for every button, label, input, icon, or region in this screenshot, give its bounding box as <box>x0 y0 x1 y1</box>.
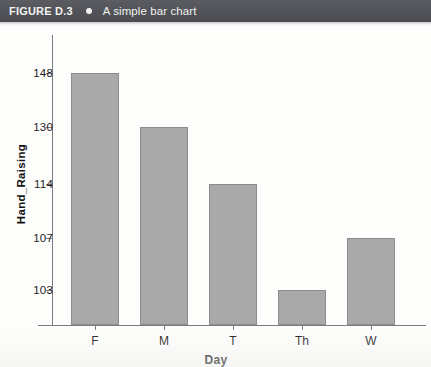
figure-page: FIGURE D.3 A simple bar chart 148 130 11… <box>0 0 431 367</box>
bar-w[interactable] <box>347 238 395 325</box>
bullet-dot-icon <box>86 8 92 14</box>
x-tick-mark <box>95 325 96 330</box>
bar-th[interactable] <box>278 290 326 325</box>
figure-caption: A simple bar chart <box>103 5 197 17</box>
y-axis-title: Hand_Raising <box>15 124 27 244</box>
figure-number-label: FIGURE D.3 <box>9 5 73 17</box>
bar-m[interactable] <box>140 127 188 325</box>
x-tick-label-th: Th <box>272 334 332 348</box>
bar-f[interactable] <box>71 73 119 325</box>
x-axis-title: Day <box>186 353 246 367</box>
y-tick-label: 148 <box>9 67 53 79</box>
x-tick-label-f: F <box>65 334 125 348</box>
x-tick-label-w: W <box>341 334 401 348</box>
x-tick-label-m: M <box>134 334 194 348</box>
x-tick-mark <box>371 325 372 330</box>
x-tick-label-t: T <box>203 334 263 348</box>
x-tick-mark <box>233 325 234 330</box>
bar-chart-plot: 148 130 114 107 103 F M T <box>0 26 431 367</box>
x-axis-line <box>38 325 426 326</box>
figure-header-bar: FIGURE D.3 A simple bar chart <box>0 0 431 22</box>
bar-t[interactable] <box>209 184 257 325</box>
y-tick-label: 103 <box>9 284 53 296</box>
x-tick-mark <box>164 325 165 330</box>
x-tick-mark <box>302 325 303 330</box>
